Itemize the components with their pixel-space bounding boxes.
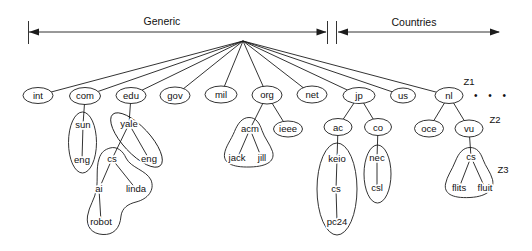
node-label-robot: robot xyxy=(90,216,112,227)
node-label-flits: flits xyxy=(452,182,467,193)
node-label-ieee: ieee xyxy=(279,123,297,134)
node-label-gov: gov xyxy=(167,90,183,101)
node-label-nec: nec xyxy=(369,152,385,163)
countries-left-arrow-icon xyxy=(338,28,348,35)
zone-label-z2: Z2 xyxy=(489,114,500,125)
node-label-jp: jp xyxy=(354,90,362,101)
zone-outline-yale-eng xyxy=(103,105,170,175)
zone-label-z3: Z3 xyxy=(497,164,508,175)
node-label-mil: mil xyxy=(215,89,227,100)
node-label-acm: acm xyxy=(241,123,259,134)
node-label-oce: oce xyxy=(421,123,436,134)
edge-root-gov xyxy=(175,41,243,96)
countries-right-arrow-icon xyxy=(490,28,500,35)
node-label-com: com xyxy=(76,90,94,101)
node-label-pc24: pc24 xyxy=(327,216,348,227)
node-label-cs-keio: cs xyxy=(331,183,341,194)
node-label-keio: keio xyxy=(328,153,345,164)
node-labels: int com edu gov mil org net jp us nl sun… xyxy=(33,89,493,228)
node-label-vu: vu xyxy=(464,123,474,134)
node-label-org: org xyxy=(260,89,274,100)
ellipsis-dots: • • • xyxy=(474,90,510,101)
zone-label-z1: Z1 xyxy=(463,76,474,87)
node-label-eng-sun: eng xyxy=(74,154,90,165)
node-label-us: us xyxy=(398,90,408,101)
node-label-fluit: fluit xyxy=(478,182,493,193)
node-label-jill: jill xyxy=(257,152,266,163)
node-label-int: int xyxy=(33,90,43,101)
node-label-net: net xyxy=(305,89,319,100)
node-label-nl: nl xyxy=(445,90,452,101)
edge-root-net xyxy=(243,41,312,95)
node-label-yale: yale xyxy=(120,118,137,129)
node-label-eng-yale: eng xyxy=(141,153,157,164)
node-label-cs-vu: cs xyxy=(466,151,476,162)
dns-namespace-diagram: Generic Countries xyxy=(0,0,532,251)
node-label-cs-yale: cs xyxy=(107,153,117,164)
countries-section-label: Countries xyxy=(392,16,437,28)
node-label-csl: csl xyxy=(371,182,383,193)
node-label-linda: linda xyxy=(126,183,147,194)
node-label-edu: edu xyxy=(123,90,139,101)
generic-section-label: Generic xyxy=(144,15,181,27)
node-label-sun: sun xyxy=(75,119,90,130)
node-label-ai: ai xyxy=(95,183,102,194)
generic-left-arrow-icon xyxy=(29,28,39,35)
node-label-co: co xyxy=(373,122,383,133)
node-label-jack: jack xyxy=(228,152,246,163)
node-label-ac: ac xyxy=(333,122,343,133)
generic-right-arrow-icon xyxy=(317,28,327,35)
